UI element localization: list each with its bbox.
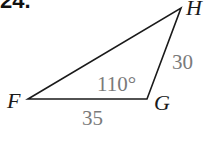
vertex-label-f: F xyxy=(7,90,20,112)
side-gh-length: 30 xyxy=(172,52,193,73)
angle-g-measure: 110° xyxy=(97,74,136,95)
vertex-label-h: H xyxy=(186,0,202,19)
vertex-label-g: G xyxy=(154,92,170,114)
triangle-diagram: 24. F G H 30 110° 35 xyxy=(0,0,204,155)
side-fg-length: 35 xyxy=(82,108,103,129)
